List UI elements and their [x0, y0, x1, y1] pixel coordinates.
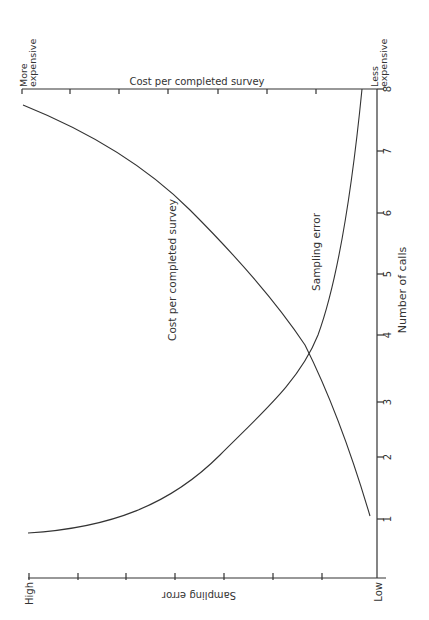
chart: Cost per completed survey More expensive…	[0, 0, 429, 620]
expensive-label-left: expensive	[27, 39, 38, 87]
tick-label-8: 8	[382, 86, 393, 92]
right-axis-title: Number of calls	[396, 247, 409, 334]
tick-label-3: 3	[382, 399, 393, 405]
right-axis: 1 2 3 4 5 6 7 8 Number of calls	[377, 86, 409, 578]
sampling-error-curve-label: Sampling error	[310, 212, 322, 291]
low-label: Low	[373, 582, 384, 602]
high-label: High	[24, 582, 35, 605]
tick-label-1: 1	[382, 516, 393, 522]
bottom-axis: Sampling error High Low	[24, 573, 386, 605]
tick-label-6: 6	[382, 210, 393, 216]
tick-label-5: 5	[382, 271, 393, 277]
tick-label-2: 2	[382, 454, 393, 460]
tick-label-4: 4	[382, 332, 393, 338]
top-axis: Cost per completed survey More expensive…	[18, 39, 389, 94]
top-axis-title: Cost per completed survey	[129, 76, 264, 87]
cost-curve-label: Cost per completed survey	[166, 199, 178, 341]
bottom-axis-title: Sampling error	[161, 590, 236, 601]
cost-curve	[23, 105, 370, 516]
sampling-error-curve	[28, 89, 362, 533]
tick-label-7: 7	[382, 148, 393, 154]
expensive-label-right: expensive	[378, 39, 389, 87]
